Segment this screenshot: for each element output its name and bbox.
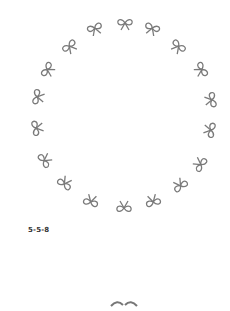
figure-caption: 5-5-8: [28, 226, 49, 234]
bow-icon: [29, 118, 46, 138]
bow-icon: [115, 200, 133, 214]
bow-icon: [30, 87, 47, 107]
bow-icon: [203, 90, 220, 110]
bow-icon: [54, 172, 77, 194]
partial-bow-icon: [107, 292, 141, 302]
bow-icon: [190, 59, 211, 82]
bow-icon: [37, 59, 58, 82]
bow-icon: [202, 120, 219, 140]
bow-icon: [116, 17, 134, 31]
bow-icon: [142, 192, 163, 210]
bow-icon: [34, 149, 56, 172]
bow-icon: [189, 153, 211, 176]
bow-icon: [80, 192, 101, 210]
bow-icon: [169, 174, 192, 196]
bow-icon: [167, 36, 190, 58]
bow-icon: [141, 19, 163, 38]
bow-icon: [59, 36, 82, 58]
bow-icon: [84, 19, 106, 38]
bow-wreath-illustration: [0, 0, 230, 230]
